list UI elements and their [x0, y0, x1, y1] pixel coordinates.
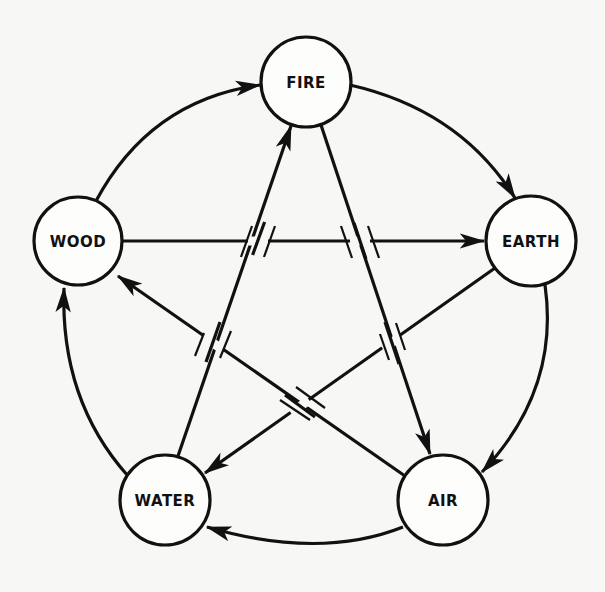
arrow-air-to-water: [207, 527, 403, 544]
elements-cycle-diagram: FIRE EARTH AIR WATER WOOD: [0, 0, 605, 592]
node-water: WATER: [120, 455, 210, 545]
node-earth: EARTH: [486, 196, 576, 286]
node-earth-label: EARTH: [502, 233, 560, 251]
arrow-wood-to-fire: [96, 85, 260, 201]
node-wood-label: WOOD: [50, 233, 107, 251]
crossing-marks: [195, 222, 405, 420]
node-fire-label: FIRE: [286, 74, 326, 92]
arrow-earth-to-air: [482, 285, 547, 472]
crossing-mark-2: [341, 223, 379, 259]
arrow-air-to-wood: [118, 276, 405, 476]
node-water-label: WATER: [135, 492, 196, 510]
node-air-label: AIR: [428, 492, 458, 510]
node-air: AIR: [398, 455, 488, 545]
arrow-water-to-wood: [64, 288, 128, 476]
crossing-mark-4: [380, 322, 405, 364]
arrow-fire-to-air: [321, 125, 430, 454]
inner-star-arrows: [118, 125, 495, 476]
arrow-fire-to-earth: [350, 85, 515, 198]
arrow-earth-to-water: [205, 268, 495, 473]
node-wood: WOOD: [34, 197, 122, 285]
arrow-water-to-fire: [178, 126, 291, 456]
node-fire: FIRE: [261, 37, 351, 127]
